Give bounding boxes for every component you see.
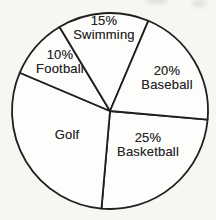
pie-slices <box>12 13 208 209</box>
pie-chart-figure: 25%BasketballGolf10%Football15%Swimming2… <box>0 0 216 220</box>
scan-artifact <box>192 0 206 7</box>
pie-slice-basketball <box>101 111 207 209</box>
pie-chart <box>0 0 216 220</box>
